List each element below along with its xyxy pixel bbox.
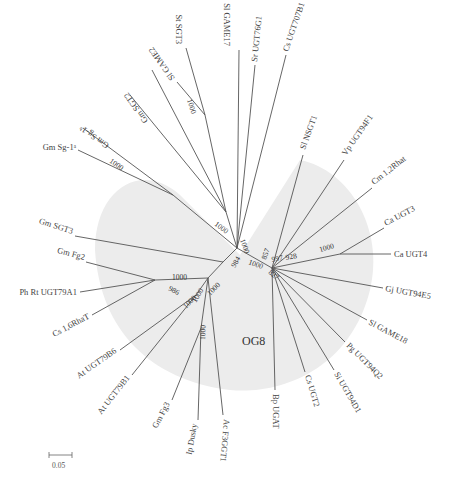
leaf-sl-game18: Sl GAME18 [367, 317, 409, 346]
phylogenetic-tree-figure: Sl GAME2 St SGT3 Sl GAME17 Sr UGT76G1 Cs… [0, 0, 451, 486]
leaf-ac-f3ggt1: Ac F3GGT1 [218, 419, 232, 462]
leaf-sl-game17: Sl GAME17 [222, 3, 232, 46]
scale-bar-label: 0.05 [52, 461, 65, 470]
leaf-cs-16rhat: Cs 1,6RhaT [50, 311, 91, 339]
leaf-sr-ugt76g1: Sr UGT76G1 [249, 15, 264, 62]
leaf-ca-ugt4: Ca UGT4 [394, 249, 428, 259]
leaf-bp-ugat: Bp UGAT [271, 394, 281, 430]
leaf-cm-12rhat: Cm 1,2Rhat [369, 153, 408, 187]
leaf-ip-dusky: Ip Dusky [184, 422, 199, 455]
leaf-at-ugt79b1: At UGT79B1 [95, 373, 132, 416]
leaf-sl-game2: Sl GAME2 [146, 45, 176, 82]
leaf-gm-fg3: Gm Fg3 [150, 400, 172, 430]
leaf-gm-sgt3: Gm SGT3 [38, 216, 75, 236]
bootstrap-value: 1000 [198, 325, 208, 341]
leaf-cs-ugt2: Cs UGT2 [303, 374, 322, 408]
leaf-sl-nsgt1: Sl NSGT1 [297, 114, 319, 151]
leaf-pg-ugt94q2: Pg UGT94Q2 [345, 340, 386, 381]
leaf-at-ugt79b6: At UGT79B6 [74, 345, 118, 380]
leaf-gj-ugt94e5: Gj UGT94E5 [385, 283, 432, 301]
bootstrap-value: 1000 [108, 156, 126, 172]
leaf-gm-sg1a: Gm Sg-1ᵃ [43, 142, 77, 152]
group-label-og8: OG8 [242, 334, 265, 348]
leaf-gm-sgt2: Gm SGT2 [121, 91, 149, 126]
leaf-ca-ugt3: Ca UGT3 [382, 203, 416, 227]
leaf-ph-rt-ugt79a1: Ph Rt UGT79A1 [19, 287, 77, 297]
leaf-si-ugt94d1: Si UGT94D1 [332, 370, 363, 414]
leaf-vp-ugt94f1: Vp UGT94F1 [339, 113, 374, 158]
leaf-gm-sg1b: Gm Sg-1ᵇ [77, 123, 111, 151]
leaf-cs-ugt707b1: Cs UGT707B1 [280, 1, 306, 53]
bootstrap-value: 1000 [172, 273, 187, 282]
leaf-st-sgt3: St SGT3 [174, 14, 184, 44]
leaf-gm-fg2: Gm Fg2 [56, 245, 86, 262]
scale-bar: 0.05 [49, 452, 72, 470]
bootstrap-value: 1000 [185, 98, 198, 115]
